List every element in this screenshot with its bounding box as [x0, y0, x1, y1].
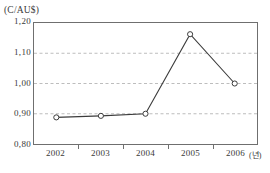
x-axis-tick-label: 2003 [91, 148, 110, 158]
y-axis-tick-label: 0,90 [0, 108, 31, 118]
x-axis-tick-label: 2006 [226, 148, 245, 158]
x-axis-unit-label: (년) [249, 149, 261, 160]
x-axis-tick-mark [78, 145, 79, 149]
data-point-marker [54, 115, 59, 120]
y-axis-tick-label: 0,80 [0, 139, 31, 149]
data-series-layer [34, 23, 257, 144]
data-point-marker [143, 111, 148, 116]
x-axis-tick-label: 2005 [181, 148, 200, 158]
line-chart-figure: (C/AU$) 0,800,901,001,101,20 20022003200… [0, 0, 270, 173]
plot-area [33, 22, 258, 145]
x-axis-tick-mark [168, 145, 169, 149]
x-axis-tick-label: 2002 [46, 148, 65, 158]
x-axis-tick-mark [213, 145, 214, 149]
y-axis-tick-label: 1,20 [0, 16, 31, 26]
y-axis-unit-label: (C/AU$) [4, 5, 39, 15]
x-axis-tick-mark [123, 145, 124, 149]
series-line [56, 34, 234, 117]
data-point-marker [98, 113, 103, 118]
y-axis-tick-label: 1,10 [0, 47, 31, 57]
data-point-marker [188, 32, 193, 37]
y-axis-tick-label: 1,00 [0, 78, 31, 88]
data-point-marker [232, 81, 237, 86]
x-axis-tick-label: 2004 [136, 148, 155, 158]
